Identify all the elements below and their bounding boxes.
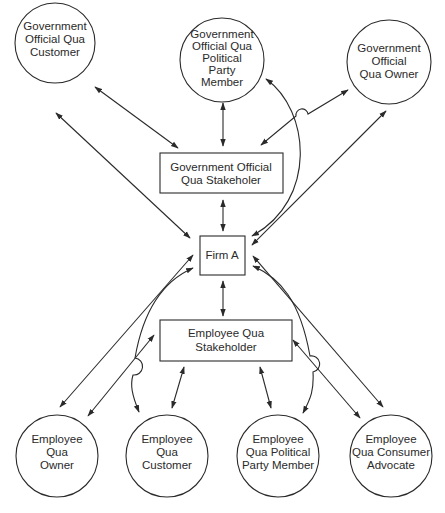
edge-emp-customer-to-emp-stakeholder xyxy=(172,367,184,408)
node-label-line: Advocate xyxy=(367,459,415,471)
edge-gov-customer-to-gov-stakeholder xyxy=(95,87,178,148)
node-label-line: Owner xyxy=(40,459,74,471)
svg-text:GovernmentOfficial QuaCustomer: GovernmentOfficial QuaCustomer xyxy=(23,20,87,58)
node-label-line: Stakeholder xyxy=(195,341,257,353)
node-label-line: Official Qua xyxy=(192,40,252,52)
node-label-line: Qua xyxy=(156,446,178,458)
node-gov-owner: GovernmentOfficialQua Owner xyxy=(347,20,431,104)
node-label-line: Employee Qua xyxy=(188,327,265,339)
node-label-line: Government xyxy=(190,28,254,40)
node-label-line: Member xyxy=(201,76,243,88)
edge-emp-advocate-to-emp-stakeholder xyxy=(293,340,360,418)
stakeholder-diagram: GovernmentOfficial QuaCustomer Governmen… xyxy=(0,0,445,513)
node-emp-party: EmployeeQua PoliticalParty Member xyxy=(237,415,319,497)
node-label-line: Qua Consumer xyxy=(352,446,430,458)
node-label-line: Employee xyxy=(365,433,416,445)
edge-gov-owner-to-gov-stakeholder xyxy=(261,90,348,145)
node-emp-stakeholder: Employee QuaStakeholder xyxy=(160,320,292,361)
node-label-line: Government xyxy=(23,20,87,32)
node-label-line: Party Member xyxy=(242,459,314,471)
node-label-line: Employee xyxy=(252,433,303,445)
node-label-line: Official xyxy=(372,55,407,67)
node-label-line: Qua Owner xyxy=(360,68,419,80)
svg-text:EmployeeQua PoliticalParty Mem: EmployeeQua PoliticalParty Member xyxy=(242,433,314,471)
node-label-line: Qua xyxy=(46,446,68,458)
svg-text:Firm A: Firm A xyxy=(205,249,239,261)
node-label-line: Political xyxy=(202,52,242,64)
node-label-line: Customer xyxy=(30,46,80,58)
node-label-line: Qua Political xyxy=(246,446,311,458)
node-label-line: Employee xyxy=(31,433,82,445)
node-label-line: Qua Stakeholer xyxy=(181,174,261,186)
node-label-line: Party xyxy=(209,64,236,76)
node-firm: Firm A xyxy=(200,236,245,275)
edge-emp-owner-to-emp-stakeholder xyxy=(88,335,154,416)
node-emp-owner: EmployeeQuaOwner xyxy=(16,415,98,497)
node-gov-stakeholder: Government OfficialQua Stakeholer xyxy=(160,153,283,193)
node-label-line: Employee xyxy=(141,433,192,445)
node-label-line: Government xyxy=(357,42,421,54)
node-emp-customer: EmployeeQuaCustomer xyxy=(126,415,208,497)
node-rect xyxy=(160,153,283,193)
node-label-line: Firm A xyxy=(205,249,239,261)
node-emp-advocate: EmployeeQua ConsumerAdvocate xyxy=(350,415,432,497)
node-gov-customer: GovernmentOfficial QuaCustomer xyxy=(15,3,95,83)
edge-emp-party-to-emp-stakeholder xyxy=(260,367,271,408)
svg-text:Government OfficialQua Stakeho: Government OfficialQua Stakeholer xyxy=(170,161,271,186)
node-label-line: Official Qua xyxy=(25,33,85,45)
node-label-line: Government Official xyxy=(170,161,271,173)
node-label-line: Customer xyxy=(142,459,192,471)
node-gov-party: GovernmentOfficial QuaPoliticalPartyMemb… xyxy=(180,18,264,102)
